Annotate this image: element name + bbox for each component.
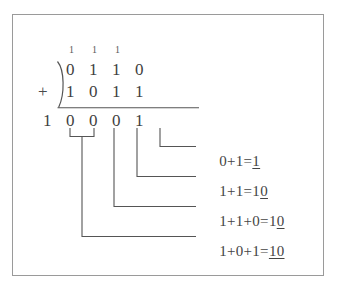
annotation-ones-lhs: 0+1=	[219, 153, 252, 169]
plus-operator: +	[38, 83, 48, 100]
annotation-ones-underlined: 1	[252, 153, 260, 169]
addend-top-digit-3: 0	[135, 61, 144, 78]
annotation-fours-underlined: 0	[277, 213, 285, 229]
addend-top-digit-2: 1	[112, 61, 121, 78]
addend-bottom-digit-2: 1	[112, 83, 121, 100]
annotation-twos-underlined: 0	[260, 183, 268, 199]
annotation-eights: 1+0+1=10	[203, 229, 285, 274]
sum-digit-2: 0	[89, 112, 98, 129]
binary-addition-figure: 1 1 1 0 1 1 0 + 1 0 1 1 1 0 0 0 1 0+1=1 …	[0, 0, 340, 296]
annotation-twos-prefix: 1	[252, 183, 260, 199]
carry-digit-0: 1	[69, 45, 74, 55]
addend-bottom-digit-3: 1	[135, 83, 144, 100]
annotation-eights-underlined: 10	[269, 243, 285, 259]
carry-digit-2: 1	[115, 45, 120, 55]
sum-digit-1: 0	[66, 112, 75, 129]
addend-bottom-digit-1: 0	[89, 83, 98, 100]
addend-top-digit-1: 1	[89, 61, 98, 78]
sum-digit-4: 1	[135, 112, 144, 129]
carry-digit-1: 1	[92, 45, 97, 55]
addend-top-digit-0: 0	[66, 61, 75, 78]
addend-bottom-digit-0: 1	[66, 83, 75, 100]
annotation-fours-lhs: 1+1+0=	[219, 213, 269, 229]
annotation-twos-lhs: 1+1=	[219, 183, 252, 199]
annotation-fours-prefix: 1	[269, 213, 277, 229]
annotation-eights-lhs: 1+0+1=	[219, 243, 269, 259]
sum-digit-3: 0	[112, 112, 121, 129]
sum-digit-0: 1	[43, 112, 52, 129]
